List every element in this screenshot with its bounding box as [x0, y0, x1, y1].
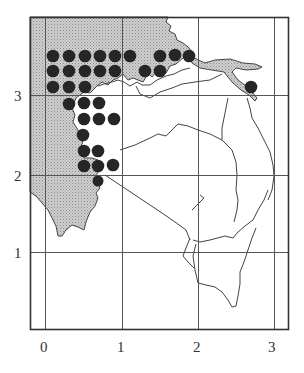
occurrence-dot [79, 81, 92, 94]
occurrence-dot [109, 50, 122, 63]
occurrence-dot [79, 65, 92, 78]
occurrence-dot [124, 50, 137, 63]
occurrence-dot [183, 50, 196, 63]
occurrence-dot [78, 113, 91, 126]
x-tick-2: 2 [193, 339, 201, 355]
occurrence-dot [93, 113, 106, 126]
occurrence-dot [78, 97, 91, 110]
occurrence-dot [47, 50, 60, 63]
x-tick-1: 1 [117, 339, 125, 355]
occurrence-dot [63, 81, 76, 94]
occurrence-dot [92, 145, 105, 158]
occurrence-dot [154, 50, 167, 63]
occurrence-dot [169, 49, 182, 62]
y-tick-2: 2 [14, 168, 22, 184]
occurrence-dot [93, 97, 106, 110]
occurrence-dot [245, 81, 258, 94]
x-tick-0: 0 [40, 339, 48, 355]
y-tick-1: 1 [14, 245, 22, 261]
occurrence-dot [63, 50, 76, 63]
occurrence-dot [78, 160, 91, 173]
occurrence-dot [47, 65, 60, 78]
occurrence-dot [109, 65, 122, 78]
occurrence-dot [108, 113, 121, 126]
occurrence-dot [79, 50, 92, 63]
occurrence-dot [77, 129, 90, 142]
occurrence-dot [154, 65, 167, 78]
shaded-region [30, 17, 195, 236]
coastline-and-rivers [98, 68, 274, 307]
y-tick-3: 3 [14, 88, 22, 104]
occurrence-dot [139, 65, 152, 78]
occurrence-dot [94, 65, 107, 78]
occurrence-dot [63, 65, 76, 78]
occurrence-dot [47, 81, 60, 94]
occurrence-dot [92, 160, 105, 173]
distribution-map: 0 1 2 3 3 2 1 [0, 0, 304, 373]
x-tick-3: 3 [268, 339, 276, 355]
occurrence-dot [94, 50, 107, 63]
occurrence-dot [78, 145, 91, 158]
estuary-region [190, 56, 262, 101]
occurrence-dot [63, 98, 76, 111]
occurrence-dot [107, 159, 120, 172]
occurrence-dot [93, 176, 104, 187]
